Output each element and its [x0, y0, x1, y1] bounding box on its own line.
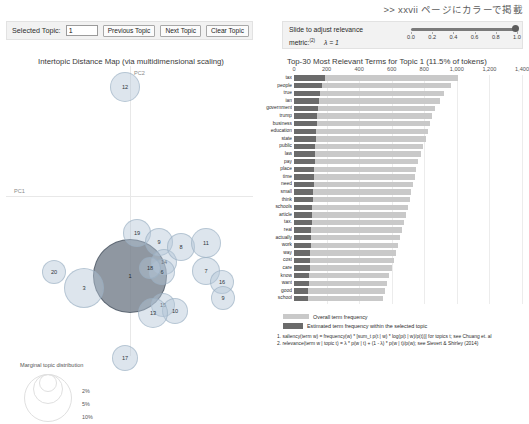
topic-bubble[interactable]: 17: [112, 345, 138, 371]
bar-chart-row[interactable]: think: [262, 197, 522, 203]
bar-chart-term-label[interactable]: need: [262, 181, 292, 187]
bar-chart-term-label[interactable]: tax.: [262, 219, 292, 225]
bar-topic-frequency: [294, 75, 325, 81]
bar-chart-row[interactable]: state: [262, 136, 522, 142]
bar-chart-term-label[interactable]: actually: [262, 235, 292, 241]
bar-chart-row[interactable]: work: [262, 242, 522, 248]
topic-bubble[interactable]: 3: [64, 268, 104, 308]
bar-chart-row[interactable]: trump: [262, 113, 522, 119]
bar-chart-row[interactable]: cost: [262, 257, 522, 263]
bar-chart-row[interactable]: want: [262, 280, 522, 286]
bar-chart-row[interactable]: place: [262, 166, 522, 172]
bar-chart-term-label[interactable]: ian: [262, 98, 292, 104]
bar-chart-row[interactable]: people: [262, 83, 522, 89]
bar-chart-row[interactable]: law: [262, 151, 522, 157]
bar-chart-term-label[interactable]: article: [262, 212, 292, 218]
bar-chart-term-label[interactable]: time: [262, 174, 292, 180]
topic-selector-bar: Selected Topic: Previous Topic Next Topi…: [6, 21, 253, 40]
bar-chart-term-label[interactable]: state: [262, 136, 292, 142]
bar-chart-row[interactable]: care: [262, 265, 522, 271]
bar-chart-row[interactable]: true: [262, 90, 522, 96]
topic-bubble[interactable]: 18: [139, 257, 161, 279]
bar-chart-term-label[interactable]: business: [262, 121, 292, 127]
next-topic-button[interactable]: Next Topic: [160, 25, 201, 37]
map-y-axis-label: PC2: [134, 70, 145, 76]
bar-chart-term-label[interactable]: government: [262, 105, 292, 111]
top-terms-title: Top-30 Most Relevant Terms for Topic 1 (…: [287, 57, 487, 66]
bar-chart-term-label[interactable]: law: [262, 151, 292, 157]
lambda-value: λ = 1: [324, 38, 339, 49]
bar-chart-row[interactable]: tax: [262, 75, 522, 81]
topic-bubble[interactable]: 12: [110, 72, 140, 102]
slider-tick-label: 0.2: [428, 34, 436, 40]
bar-topic-frequency: [294, 136, 316, 142]
bar-chart-row[interactable]: tax.: [262, 219, 522, 225]
bar-chart-gridline: [522, 75, 523, 304]
topic-bubble-label: 10: [172, 308, 178, 314]
bar-chart-row[interactable]: business: [262, 121, 522, 127]
bar-chart-term-label[interactable]: public: [262, 143, 292, 149]
bar-topic-frequency: [294, 212, 312, 218]
bar-chart-row[interactable]: public: [262, 143, 522, 149]
bar-chart-term-label[interactable]: tax: [262, 75, 292, 81]
bar-chart-term-label[interactable]: schools: [262, 204, 292, 210]
bar-chart-term-label[interactable]: cost: [262, 257, 292, 263]
bar-chart-term-label[interactable]: want: [262, 280, 292, 286]
bar-chart-x-tick-label: 600: [387, 66, 396, 72]
bar-chart-row[interactable]: real: [262, 227, 522, 233]
bar-chart-x-tick-label: 800: [420, 66, 429, 72]
bar-chart-term-label[interactable]: work: [262, 242, 292, 248]
topic-bubble[interactable]: 13: [138, 298, 168, 328]
topic-bubble[interactable]: 20: [42, 260, 66, 284]
relevance-metric-text: metric:: [289, 39, 309, 46]
bar-chart-term-label[interactable]: way: [262, 250, 292, 256]
legend-row-topic: Estimated term frequency within the sele…: [283, 323, 427, 330]
topic-bubble[interactable]: 11: [191, 228, 221, 258]
topic-bubble-label: 17: [122, 355, 128, 361]
slider-handle[interactable]: [512, 25, 519, 32]
relevance-slider-bar: Slide to adjust relevance metric:(2)λ = …: [282, 21, 523, 49]
bar-chart-term-label[interactable]: care: [262, 265, 292, 271]
bar-chart-row[interactable]: actually: [262, 235, 522, 241]
bar-chart-row[interactable]: need: [262, 181, 522, 187]
bar-chart-term-label[interactable]: know: [262, 273, 292, 279]
bar-chart-row[interactable]: ian: [262, 98, 522, 104]
topic-bubble[interactable]: 9: [211, 286, 235, 310]
bar-chart-row[interactable]: good: [262, 288, 522, 294]
bar-chart-term-label[interactable]: good: [262, 288, 292, 294]
bar-chart-row[interactable]: small: [262, 189, 522, 195]
bar-chart-row[interactable]: pay: [262, 159, 522, 165]
previous-topic-button[interactable]: Previous Topic: [103, 25, 156, 37]
selected-topic-input[interactable]: [66, 25, 98, 36]
topic-bubble-label: 13: [150, 310, 156, 316]
bar-chart-term-label[interactable]: pay: [262, 159, 292, 165]
slider-tick-label: 0.6: [471, 34, 479, 40]
bar-chart-row[interactable]: article: [262, 212, 522, 218]
bar-topic-frequency: [294, 197, 313, 203]
bar-chart-term-label[interactable]: education: [262, 128, 292, 134]
bar-chart-row[interactable]: time: [262, 174, 522, 180]
topic-bubble-label: 7: [204, 268, 207, 274]
bar-chart-term-label[interactable]: school: [262, 295, 292, 301]
bar-chart-row[interactable]: way: [262, 250, 522, 256]
slider-rail[interactable]: [411, 28, 517, 31]
bar-chart-term-label[interactable]: real: [262, 227, 292, 233]
bar-chart-row[interactable]: school: [262, 295, 522, 301]
bar-chart-x-tick-label: 400: [354, 66, 363, 72]
bar-chart-term-label[interactable]: people: [262, 83, 292, 89]
footnote-saliency: 1. saliency(term w) = frequency(w) * [su…: [277, 333, 527, 340]
topic-bubble-label: 9: [221, 295, 224, 301]
relevance-slider[interactable]: 0.00.20.40.60.81.0: [411, 26, 517, 46]
bar-chart-row[interactable]: education: [262, 128, 522, 134]
bar-chart-row[interactable]: schools: [262, 204, 522, 210]
intertopic-distance-map[interactable]: PC1 PC2 Marginal topic distribution 2% 5…: [6, 66, 253, 356]
clear-topic-button[interactable]: Clear Topic: [206, 25, 249, 37]
bar-chart-row[interactable]: government: [262, 105, 522, 111]
bar-chart-term-label[interactable]: true: [262, 90, 292, 96]
bar-chart-term-label[interactable]: trump: [262, 113, 292, 119]
bar-chart-term-label[interactable]: think: [262, 197, 292, 203]
bar-chart-term-label[interactable]: small: [262, 189, 292, 195]
bar-topic-frequency: [294, 83, 322, 89]
bar-chart-term-label[interactable]: place: [262, 166, 292, 172]
bar-chart-row[interactable]: know: [262, 273, 522, 279]
